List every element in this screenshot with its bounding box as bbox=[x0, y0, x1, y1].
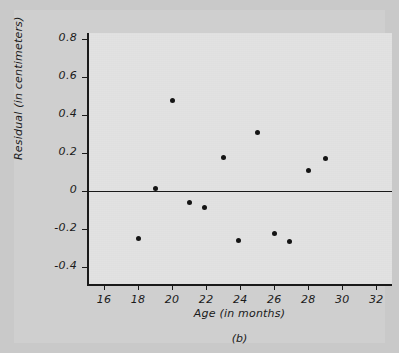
scatter-point bbox=[187, 200, 192, 205]
scatter-point bbox=[272, 231, 277, 236]
y-axis-tick-label: 0 bbox=[25, 183, 77, 196]
scatter-point bbox=[306, 168, 311, 173]
plot-area bbox=[87, 33, 392, 286]
scatter-point bbox=[323, 156, 328, 161]
scatter-point bbox=[221, 155, 226, 160]
x-axis-tick bbox=[240, 284, 241, 290]
figure-panel: Residual (in centimeters) Age (in months… bbox=[14, 10, 385, 343]
figure-caption: (b) bbox=[87, 332, 392, 345]
scatter-point bbox=[236, 238, 241, 243]
y-axis-label: Residual (in centimeters) bbox=[12, 0, 25, 160]
y-axis-tick-label: 0.4 bbox=[25, 107, 77, 120]
x-axis-tick bbox=[138, 284, 139, 290]
y-axis-tick-label: -0.2 bbox=[25, 221, 77, 234]
y-axis-tick-label: 0.8 bbox=[25, 31, 77, 44]
y-axis-tick bbox=[82, 77, 88, 78]
y-axis-tick-label: 0.2 bbox=[25, 145, 77, 158]
residual-plot-figure: Residual (in centimeters) Age (in months… bbox=[0, 0, 399, 353]
x-axis-tick bbox=[342, 284, 343, 290]
y-axis-tick bbox=[82, 153, 88, 154]
y-axis-tick-label: -0.4 bbox=[25, 259, 77, 272]
x-axis-tick-label: 32 bbox=[356, 293, 396, 306]
x-axis-tick bbox=[376, 284, 377, 290]
x-axis-label: Age (in months) bbox=[87, 307, 392, 320]
scatter-point bbox=[202, 205, 207, 210]
y-axis-tick bbox=[82, 229, 88, 230]
zero-reference-line bbox=[89, 191, 392, 192]
y-axis-tick bbox=[82, 267, 88, 268]
scatter-point bbox=[170, 98, 175, 103]
scatter-point bbox=[136, 236, 141, 241]
x-axis-tick bbox=[172, 284, 173, 290]
x-axis-tick bbox=[206, 284, 207, 290]
y-axis-tick bbox=[82, 191, 88, 192]
y-axis-tick-label: 0.6 bbox=[25, 69, 77, 82]
y-axis-tick bbox=[82, 39, 88, 40]
x-axis-tick bbox=[308, 284, 309, 290]
y-axis-tick bbox=[82, 115, 88, 116]
scatter-point bbox=[255, 130, 260, 135]
x-axis-tick bbox=[274, 284, 275, 290]
scatter-point bbox=[287, 239, 292, 244]
x-axis-tick bbox=[104, 284, 105, 290]
plot-inner bbox=[89, 33, 392, 284]
